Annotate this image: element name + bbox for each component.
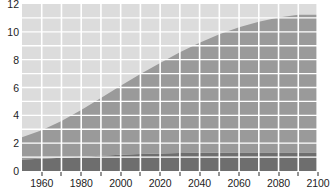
x-tick-mark [179, 172, 180, 176]
y-axis: 024681012 [0, 0, 331, 196]
x-tick-label: 2040 [188, 178, 211, 189]
x-tick-mark [120, 172, 121, 176]
x-tick-mark [317, 172, 318, 176]
x-tick-label: 2080 [267, 178, 290, 189]
x-tick-mark [100, 172, 101, 176]
x-tick-mark [219, 172, 220, 176]
x-tick-mark [140, 172, 141, 176]
y-tick-label: 10 [0, 27, 19, 38]
x-tick-label: 2060 [228, 178, 251, 189]
x-tick-label: 1960 [30, 178, 53, 189]
x-tick-label: 2020 [149, 178, 172, 189]
x-tick-mark [258, 172, 259, 176]
x-tick-mark [298, 172, 299, 176]
x-tick-label: 2000 [109, 178, 132, 189]
x-tick-mark [239, 172, 240, 176]
x-axis: 19601980200020202040206020802100 [0, 172, 331, 196]
x-tick-mark [81, 172, 82, 176]
stacked-area-chart: 024681012 196019802000202020402060208021… [0, 0, 331, 196]
x-tick-mark [199, 172, 200, 176]
y-tick-label: 2 [0, 138, 19, 149]
x-tick-mark [41, 172, 42, 176]
y-tick-label: 4 [0, 110, 19, 121]
y-tick-label: 6 [0, 83, 19, 94]
x-tick-mark [61, 172, 62, 176]
y-tick-label: 8 [0, 55, 19, 66]
x-tick-mark [278, 172, 279, 176]
y-tick-label: 12 [0, 0, 19, 10]
x-tick-mark [160, 172, 161, 176]
x-tick-label: 1980 [70, 178, 93, 189]
x-tick-label: 2100 [307, 178, 330, 189]
